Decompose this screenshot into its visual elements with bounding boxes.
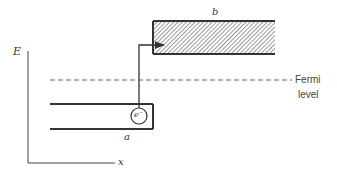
energy-band-diagram	[0, 0, 337, 174]
electron-label: e⁻	[134, 111, 143, 119]
fermi-label-line2: level	[298, 90, 319, 100]
fermi-label-line1: Fermi	[295, 75, 321, 85]
position-axis-label: x	[118, 157, 124, 167]
energy-axis-label: E	[13, 46, 21, 57]
band-b-label: b	[212, 7, 218, 17]
axes	[28, 51, 115, 163]
band-b	[153, 21, 275, 54]
band-a-label: a	[124, 132, 130, 142]
